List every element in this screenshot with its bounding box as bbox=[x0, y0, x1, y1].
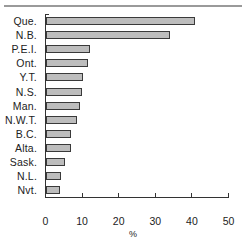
category-label: B.C. bbox=[16, 128, 37, 140]
x-tick bbox=[118, 193, 119, 197]
x-tick-label: 30 bbox=[149, 215, 161, 227]
bar bbox=[46, 88, 82, 96]
category-label: Que. bbox=[13, 15, 37, 27]
y-axis-cap bbox=[45, 14, 49, 15]
x-tick-label: 50 bbox=[223, 215, 235, 227]
x-tick-label: 40 bbox=[186, 215, 198, 227]
x-tick-label: 20 bbox=[113, 215, 125, 227]
category-label: N.B. bbox=[16, 29, 37, 41]
bar bbox=[46, 144, 71, 152]
category-label: Man. bbox=[13, 100, 37, 112]
category-label: Sask. bbox=[10, 156, 37, 168]
x-tick-label: 10 bbox=[76, 215, 88, 227]
x-axis-title: % bbox=[129, 229, 137, 239]
bar bbox=[46, 31, 170, 39]
bar bbox=[46, 172, 61, 180]
x-tick-label: 0 bbox=[43, 215, 49, 227]
bar bbox=[46, 59, 88, 67]
category-label: Nvt. bbox=[18, 184, 37, 196]
bar-chart: % Que.N.B.P.E.I.Ont.Y.T.N.S.Man.N.W.T.B.… bbox=[0, 0, 249, 239]
category-label: Y.T. bbox=[19, 71, 37, 83]
category-label: P.E.I. bbox=[11, 43, 37, 55]
category-label: Alta. bbox=[15, 142, 37, 154]
bar bbox=[46, 17, 195, 25]
bar bbox=[46, 186, 60, 194]
bar bbox=[46, 116, 77, 124]
category-label: N.W.T. bbox=[5, 114, 37, 126]
bar bbox=[46, 158, 65, 166]
x-tick bbox=[191, 193, 192, 197]
x-tick bbox=[82, 193, 83, 197]
category-label: N.S. bbox=[16, 86, 37, 98]
bar bbox=[46, 73, 83, 81]
category-label: N.L. bbox=[17, 170, 37, 182]
x-tick bbox=[228, 193, 229, 197]
bar bbox=[46, 45, 90, 53]
x-axis bbox=[45, 197, 229, 198]
x-tick bbox=[155, 193, 156, 197]
category-label: Ont. bbox=[16, 57, 37, 69]
bar bbox=[46, 130, 71, 138]
bar bbox=[46, 102, 80, 110]
